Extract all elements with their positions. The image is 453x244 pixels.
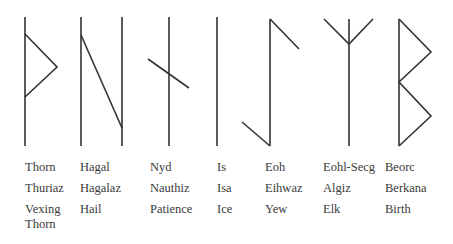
- rune-name: Birth: [385, 199, 427, 220]
- rune-name: Ice: [217, 199, 232, 220]
- rune-names-beorc: Beorc Berkana Birth: [385, 157, 427, 220]
- rune-name: Eihwaz: [265, 178, 302, 199]
- rune-name: Eoh: [265, 157, 302, 178]
- rune-glyphs: [0, 0, 453, 150]
- algiz-rune-icon: [324, 19, 373, 146]
- rune-name: Thorn: [25, 157, 65, 178]
- rune-name: Yew: [265, 199, 302, 220]
- rune-names-eohl-secg: Eohl-Secg Algiz Elk: [323, 157, 375, 220]
- rune-name: Hail: [80, 199, 121, 220]
- rune-name: Eohl-Secg: [323, 157, 375, 178]
- rune-name: Vexing Thorn: [25, 199, 65, 232]
- rune-names-is: Is Isa Ice: [217, 157, 232, 220]
- rune-name: Nauthiz: [150, 178, 192, 199]
- nyd-rune-icon: [148, 17, 189, 146]
- rune-name: Hagalaz: [80, 178, 121, 199]
- rune-names-hagal: Hagal Hagalaz Hail: [80, 157, 121, 220]
- rune-names-eoh: Eoh Eihwaz Yew: [265, 157, 302, 220]
- rune-name: Isa: [217, 178, 232, 199]
- rune-name: Elk: [323, 199, 375, 220]
- rune-names-thorn: Thorn Thuriaz Vexing Thorn: [25, 157, 65, 232]
- rune-name: Is: [217, 157, 232, 178]
- rune-names-nyd: Nyd Nauthiz Patience: [150, 157, 192, 220]
- thorn-rune-icon: [25, 17, 57, 146]
- rune-name: Algiz: [323, 178, 375, 199]
- rune-name: Berkana: [385, 178, 427, 199]
- rune-name: Beorc: [385, 157, 427, 178]
- beorc-rune-icon: [399, 19, 431, 146]
- rune-name: Thuriaz: [25, 178, 65, 199]
- eoh-rune-icon: [242, 19, 299, 146]
- hagal-rune-icon: [81, 17, 122, 146]
- rune-name: Patience: [150, 199, 192, 220]
- rune-name: Hagal: [80, 157, 121, 178]
- rune-name: Nyd: [150, 157, 192, 178]
